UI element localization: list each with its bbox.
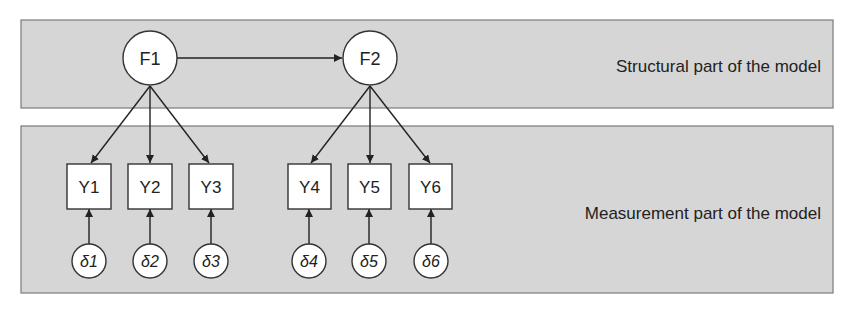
error-label: δ2 xyxy=(141,253,159,270)
error-d3: δ3 xyxy=(194,244,228,278)
latent-label: F2 xyxy=(359,49,380,69)
observed-label: Y3 xyxy=(201,178,222,197)
measurement-label: Measurement part of the model xyxy=(585,204,821,223)
error-label: δ4 xyxy=(300,253,318,270)
error-label: δ1 xyxy=(80,253,98,270)
error-label: δ3 xyxy=(202,253,220,270)
observed-y5: Y5 xyxy=(348,164,391,209)
observed-y4: Y4 xyxy=(288,164,331,209)
observed-label: Y4 xyxy=(299,178,320,197)
latent-label: F1 xyxy=(139,49,160,69)
sem-diagram: F1 F2 Y1 Y2 Y3 Y4 Y5 Y6 δ1 δ2 δ3 xyxy=(0,0,851,309)
error-label: δ6 xyxy=(422,253,440,270)
observed-y2: Y2 xyxy=(128,164,172,209)
observed-label: Y5 xyxy=(359,178,380,197)
latent-f2: F2 xyxy=(343,31,397,85)
latent-f1: F1 xyxy=(123,31,177,85)
structural-label: Structural part of the model xyxy=(616,57,821,76)
observed-y3: Y3 xyxy=(189,164,233,209)
error-d6: δ6 xyxy=(414,244,448,278)
observed-label: Y6 xyxy=(420,178,441,197)
error-d1: δ1 xyxy=(72,244,106,278)
error-d2: δ2 xyxy=(133,244,167,278)
error-label: δ5 xyxy=(360,253,378,270)
observed-y6: Y6 xyxy=(409,164,452,209)
observed-label: Y2 xyxy=(140,178,161,197)
observed-y1: Y1 xyxy=(67,164,111,209)
error-d5: δ5 xyxy=(352,244,386,278)
observed-label: Y1 xyxy=(79,178,100,197)
error-d4: δ4 xyxy=(292,244,326,278)
